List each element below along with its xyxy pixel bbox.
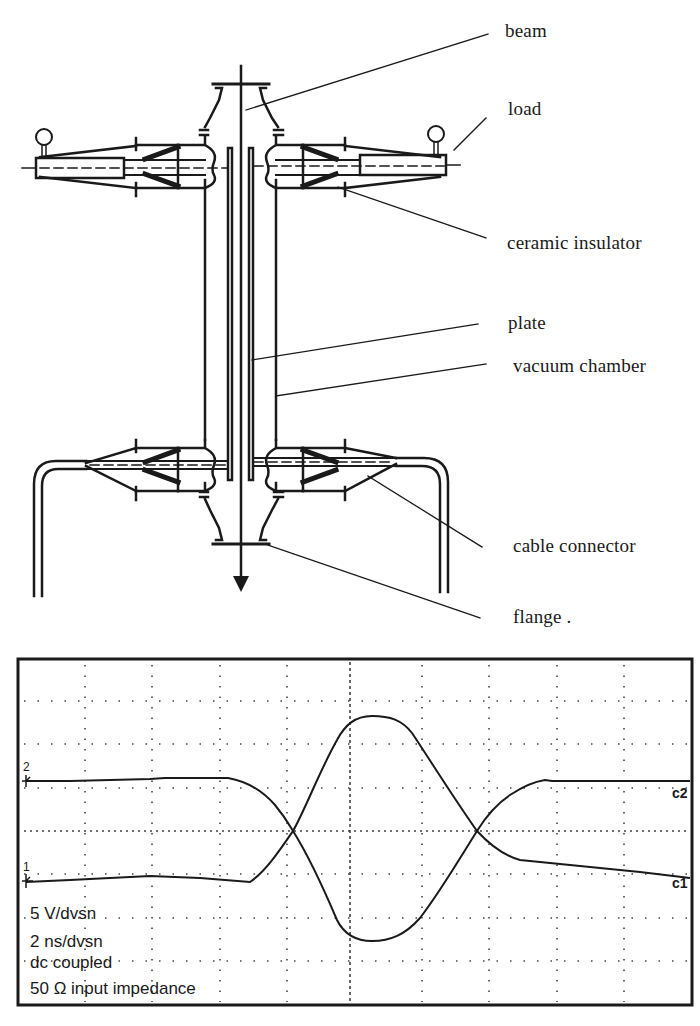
- label-load: load: [508, 98, 542, 120]
- right-plate: [249, 148, 253, 480]
- channel-1-number: 1: [23, 860, 30, 874]
- label-beam: beam: [505, 20, 547, 42]
- trace-c2: [26, 778, 690, 941]
- leader-lines: [246, 34, 488, 618]
- leader-ceramic-insulator: [338, 187, 486, 238]
- channel-2-ground-marker-icon: [22, 775, 33, 787]
- channel-1-ground-marker-icon: [22, 874, 33, 888]
- beam-axis: [233, 66, 249, 592]
- scope-traces: [26, 716, 690, 941]
- label-vacuum-chamber: vacuum chamber: [513, 355, 646, 377]
- trace-tag-c1: c1: [672, 875, 688, 891]
- scope-setting-time: 2 ns/dvsn: [30, 932, 103, 952]
- leader-load: [454, 118, 486, 150]
- scope-frame: [18, 659, 692, 1005]
- label-flange: flange .: [513, 606, 572, 628]
- leader-beam: [246, 34, 488, 110]
- oscilloscope-display: [18, 659, 692, 1005]
- leader-cable-connector: [368, 476, 482, 547]
- label-ceramic-insulator: ceramic insulator: [507, 232, 642, 254]
- leader-vacuum-chamber: [276, 364, 486, 396]
- beam-arrow-icon: [233, 576, 249, 592]
- scope-setting-impedance: 50 Ω input impedance: [30, 979, 196, 999]
- trace-c1: [26, 716, 690, 882]
- scope-setting-coupling: dc coupled: [30, 953, 112, 973]
- label-plate: plate: [508, 312, 546, 334]
- left-plate: [228, 148, 232, 480]
- scope-setting-volts: 5 V/dvsn: [30, 904, 96, 924]
- trace-tag-c2: c2: [672, 785, 688, 801]
- leader-plate: [252, 324, 478, 360]
- label-cable-connector: cable connector: [513, 535, 636, 557]
- scope-grid: [24, 662, 688, 1003]
- figure-canvas: [0, 0, 700, 1026]
- channel-2-number: 2: [23, 760, 30, 774]
- beam-monitor-diagram: [22, 34, 488, 618]
